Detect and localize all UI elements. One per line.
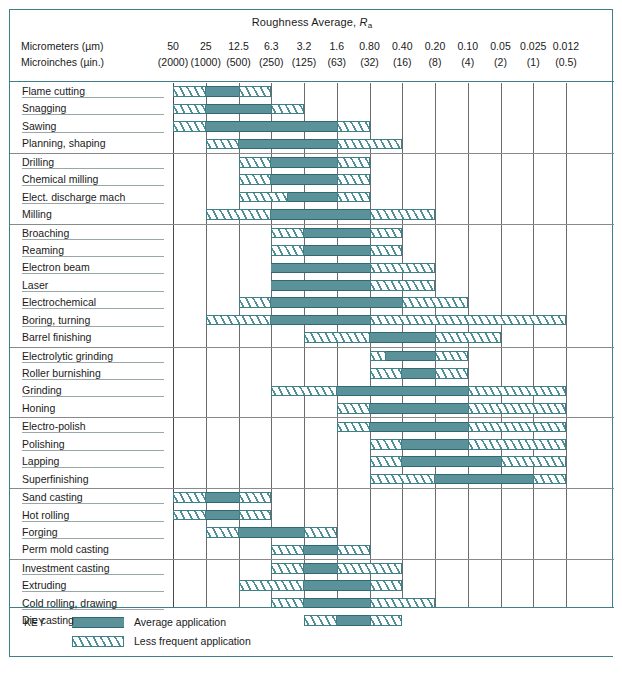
process-label: Hot rolling bbox=[22, 509, 164, 522]
roughness-range-bar bbox=[173, 351, 614, 362]
process-group-4: Electrolytic grindingRoller burnishingGr… bbox=[10, 347, 614, 418]
bar-segment-less-frequent bbox=[337, 422, 370, 433]
process-label: Flame cutting bbox=[22, 85, 164, 98]
chart-plot-area: Flame cuttingSnaggingSawingPlanning, sha… bbox=[10, 83, 614, 618]
axis-tick-micrometers-7: 0.40 bbox=[384, 40, 420, 52]
roughness-range-bar bbox=[173, 174, 614, 185]
process-label: Barrel finishing bbox=[22, 331, 164, 343]
process-row[interactable]: Broaching bbox=[10, 225, 614, 242]
process-label: Reaming bbox=[22, 244, 164, 257]
process-label: Electrolytic grinding bbox=[22, 350, 164, 363]
process-label: Boring, turning bbox=[22, 314, 164, 327]
process-row[interactable]: Investment casting bbox=[10, 560, 614, 577]
process-row[interactable]: Perm mold casting bbox=[10, 541, 614, 558]
roughness-range-bar bbox=[173, 580, 614, 591]
process-row[interactable]: Superfinishing bbox=[10, 471, 614, 488]
bar-segment-less-frequent bbox=[206, 315, 272, 326]
axis-tick-micrometers-8: 0.20 bbox=[417, 40, 453, 52]
process-row[interactable]: Polishing bbox=[10, 436, 614, 453]
bar-segment-less-frequent bbox=[271, 386, 337, 397]
axis-tick-micrometers-12: 0.012 bbox=[548, 40, 584, 52]
bar-segment-less-frequent bbox=[468, 422, 566, 433]
bar-segment-less-frequent bbox=[370, 315, 567, 326]
process-row[interactable]: Chemical milling bbox=[10, 171, 614, 188]
roughness-range-bar bbox=[173, 192, 614, 203]
process-row[interactable]: Sand casting bbox=[10, 489, 614, 506]
roughness-range-bar bbox=[173, 527, 614, 538]
roughness-range-bar bbox=[173, 386, 614, 397]
bar-segment-less-frequent bbox=[337, 192, 370, 203]
process-row[interactable]: Barrel finishing bbox=[10, 329, 614, 346]
process-row[interactable]: Hot rolling bbox=[10, 507, 614, 524]
axis-scale-header: Micrometers (µm) Microinches (µin.) 50(2… bbox=[10, 40, 614, 74]
process-row[interactable]: Electro-polish bbox=[10, 418, 614, 435]
process-group-6: Sand castingHot rollingForgingPerm mold … bbox=[10, 488, 614, 559]
bar-segment-less-frequent bbox=[304, 527, 337, 538]
roughness-range-bar bbox=[173, 598, 614, 609]
axis-label-micrometers: Micrometers (µm) bbox=[21, 40, 103, 52]
chart-frame: Roughness Average, Ra Micrometers (µm) M… bbox=[9, 9, 613, 657]
process-row[interactable]: Milling bbox=[10, 206, 614, 223]
process-row[interactable]: Elect. discharge mach bbox=[10, 189, 614, 206]
bar-segment-average bbox=[206, 492, 239, 503]
axis-tick-microinches-12: (0.5) bbox=[544, 56, 588, 68]
bar-segment-average bbox=[386, 351, 435, 362]
process-label: Chemical milling bbox=[22, 173, 164, 186]
process-row[interactable]: Lapping bbox=[10, 453, 614, 470]
bar-segment-less-frequent bbox=[337, 563, 403, 574]
roughness-range-bar bbox=[173, 545, 614, 556]
bar-segment-less-frequent bbox=[206, 139, 239, 150]
header-rule bbox=[10, 81, 614, 82]
bar-segment-less-frequent bbox=[533, 474, 566, 485]
process-row[interactable]: Honing bbox=[10, 400, 614, 417]
process-row[interactable]: Snagging bbox=[10, 100, 614, 117]
axis-tick-micrometers-4: 3.2 bbox=[286, 40, 322, 52]
bar-segment-less-frequent bbox=[173, 86, 206, 97]
bar-segment-less-frequent bbox=[239, 297, 272, 308]
roughness-range-bar bbox=[173, 139, 614, 150]
bar-segment-less-frequent bbox=[239, 492, 272, 503]
bar-segment-average bbox=[435, 474, 533, 485]
bar-segment-average bbox=[271, 280, 369, 291]
process-row[interactable]: Boring, turning bbox=[10, 312, 614, 329]
process-row[interactable]: Reaming bbox=[10, 242, 614, 259]
bar-segment-average bbox=[271, 209, 369, 220]
chart-title-text: Roughness Average, bbox=[252, 16, 357, 28]
process-row[interactable]: Electrolytic grinding bbox=[10, 348, 614, 365]
bar-segment-less-frequent bbox=[468, 386, 566, 397]
process-row[interactable]: Forging bbox=[10, 524, 614, 541]
process-label: Broaching bbox=[22, 227, 164, 240]
process-row[interactable]: Extruding bbox=[10, 577, 614, 594]
axis-label-microinches: Microinches (µin.) bbox=[21, 56, 104, 68]
process-label: Elect. discharge mach bbox=[22, 191, 164, 204]
process-row[interactable]: Electrochemical bbox=[10, 294, 614, 311]
bar-segment-less-frequent bbox=[435, 351, 468, 362]
bar-segment-less-frequent bbox=[239, 157, 272, 168]
bar-segment-less-frequent bbox=[370, 598, 436, 609]
process-row[interactable]: Drilling bbox=[10, 154, 614, 171]
process-row[interactable]: Grinding bbox=[10, 382, 614, 399]
bar-segment-less-frequent bbox=[468, 439, 566, 450]
roughness-range-bar bbox=[173, 474, 614, 485]
process-row[interactable]: Flame cutting bbox=[10, 83, 614, 100]
process-label: Grinding bbox=[22, 384, 164, 397]
axis-tick-micrometers-11: 0.025 bbox=[515, 40, 551, 52]
process-row[interactable]: Sawing bbox=[10, 118, 614, 135]
process-label: Sawing bbox=[22, 120, 164, 133]
bar-segment-less-frequent bbox=[239, 86, 272, 97]
bar-segment-less-frequent bbox=[370, 263, 436, 274]
process-row[interactable]: Laser bbox=[10, 277, 614, 294]
roughness-range-bar bbox=[173, 422, 614, 433]
process-label: Die casting bbox=[22, 614, 164, 626]
process-label: Snagging bbox=[22, 102, 164, 115]
bar-segment-average bbox=[370, 403, 468, 414]
axis-tick-micrometers-3: 6.3 bbox=[253, 40, 289, 52]
bar-segment-less-frequent bbox=[271, 563, 304, 574]
bar-segment-less-frequent bbox=[370, 245, 403, 256]
process-row[interactable]: Planning, shaping bbox=[10, 135, 614, 152]
bar-segment-less-frequent bbox=[173, 510, 206, 521]
bar-segment-average bbox=[206, 86, 239, 97]
process-row[interactable]: Electron beam bbox=[10, 259, 614, 276]
process-row[interactable]: Roller burnishing bbox=[10, 365, 614, 382]
bar-segment-less-frequent bbox=[271, 104, 304, 115]
